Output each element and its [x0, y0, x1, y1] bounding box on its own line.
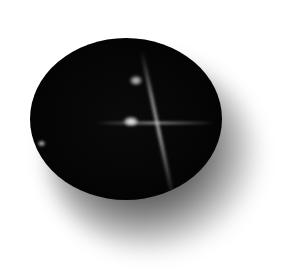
highlight-top [130, 76, 142, 85]
highlight-center [124, 117, 138, 126]
star-ray-vertical [140, 51, 174, 198]
star-gemstone [30, 38, 222, 200]
gem-photo [0, 0, 294, 273]
highlight-edge [38, 141, 45, 146]
